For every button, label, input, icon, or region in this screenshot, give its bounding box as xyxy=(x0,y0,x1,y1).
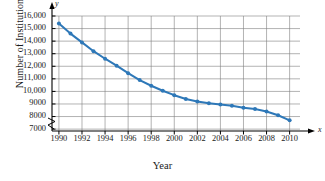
chart-figure: Number of Institutions 70008000900010,00… xyxy=(0,0,325,181)
data-point xyxy=(115,64,119,68)
data-point xyxy=(103,57,107,61)
data-point xyxy=(161,89,165,93)
data-point xyxy=(207,101,211,105)
data-point xyxy=(138,78,142,82)
x-axis-arrowhead xyxy=(308,128,315,133)
data-point xyxy=(288,118,292,122)
data-point xyxy=(265,110,269,114)
data-point xyxy=(80,40,84,44)
data-point xyxy=(149,84,153,88)
axis-break-symbol xyxy=(48,118,55,129)
data-point xyxy=(218,103,222,107)
data-point xyxy=(276,113,280,117)
data-point xyxy=(230,104,234,108)
y-axis-arrowhead xyxy=(49,2,54,9)
data-point xyxy=(253,107,257,111)
data-point xyxy=(241,106,245,110)
data-point xyxy=(195,99,199,103)
data-point xyxy=(57,22,61,26)
plot-area xyxy=(0,0,325,181)
data-point xyxy=(68,32,72,36)
data-point xyxy=(172,93,176,97)
data-point xyxy=(126,71,130,75)
data-point xyxy=(92,49,96,53)
data-point xyxy=(184,97,188,101)
